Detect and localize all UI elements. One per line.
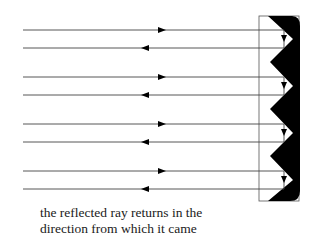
ray-group-2 [23, 77, 284, 95]
incoming-arrow-icons [158, 27, 166, 174]
caption-line-1: the reflected ray returns in the [40, 205, 300, 221]
ray-group-3 [23, 124, 284, 142]
outgoing-arrow-icons [141, 45, 149, 192]
ray-group-1 [23, 30, 284, 48]
caption-line-2: direction from which it came [40, 221, 300, 237]
diagram-caption: the reflected ray returns in the directi… [40, 205, 300, 237]
ray-group-4 [23, 171, 284, 189]
